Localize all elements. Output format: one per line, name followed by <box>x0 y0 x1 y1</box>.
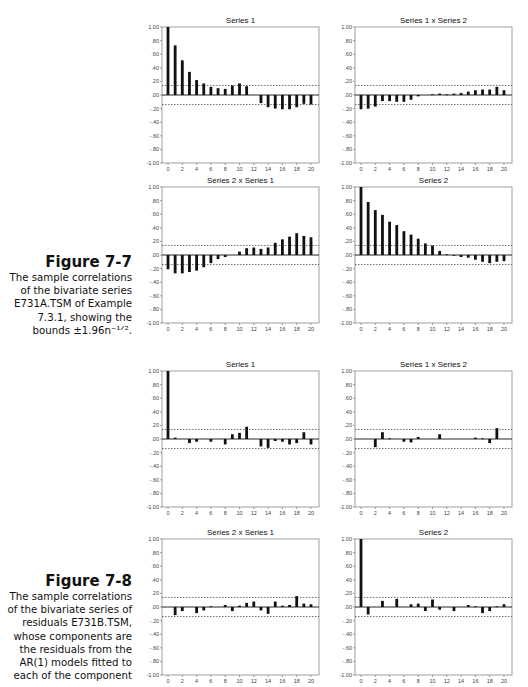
y-tick-label: -1.00 <box>146 504 159 510</box>
chart-fig7-8-series1-x-series2: Series 1 x Series 21.00.80.60.40.20.00-.… <box>323 354 515 519</box>
correlation-bar <box>388 222 391 255</box>
x-tick-label: 6 <box>402 510 405 516</box>
correlation-bar <box>281 606 284 607</box>
y-tick-label: .20 <box>344 78 352 84</box>
correlation-bar <box>410 95 413 100</box>
y-tick-label: -.60 <box>150 477 159 483</box>
correlation-bar <box>302 236 305 255</box>
y-tick-label: .40 <box>344 65 352 71</box>
chart-fig7-8-series2-x-series1: Series 2 x Series 11.00.80.60.40.20.00-.… <box>130 522 322 687</box>
correlation-bar <box>231 434 234 439</box>
y-tick-label: .40 <box>151 409 159 415</box>
correlation-bar <box>224 255 227 257</box>
correlation-bar <box>274 602 277 607</box>
x-tick-label: 16 <box>279 326 285 332</box>
correlation-bar <box>438 607 441 610</box>
x-tick-label: 2 <box>181 510 184 516</box>
chart-title: Series 2 <box>419 528 449 537</box>
y-tick-label: .40 <box>151 577 159 583</box>
caption-line: each of the component <box>0 669 132 682</box>
correlation-bar <box>424 607 427 611</box>
y-tick-label: .00 <box>344 252 352 258</box>
y-tick-label: .80 <box>151 382 159 388</box>
correlation-bar <box>174 607 177 615</box>
correlation-bar <box>181 60 184 95</box>
correlation-bar <box>224 439 227 444</box>
x-tick-label: 6 <box>402 326 405 332</box>
correlation-bar <box>224 605 227 607</box>
correlation-bar <box>202 255 205 267</box>
y-tick-label: -.40 <box>150 119 159 125</box>
correlation-bar <box>217 255 220 259</box>
x-tick-label: 6 <box>209 510 212 516</box>
y-tick-label: .20 <box>344 590 352 596</box>
x-tick-label: 4 <box>195 510 198 516</box>
correlation-bar <box>245 427 248 439</box>
y-tick-label: .80 <box>151 550 159 556</box>
correlation-bar <box>274 439 277 441</box>
caption-line: AR(1) models fitted to <box>0 656 132 669</box>
correlation-bar <box>267 248 270 255</box>
x-tick-label: 16 <box>472 510 478 516</box>
y-tick-label: .00 <box>344 92 352 98</box>
correlation-bar <box>395 225 398 255</box>
correlation-bar <box>181 255 184 273</box>
correlation-bar <box>188 72 191 95</box>
x-tick-label: 4 <box>195 678 198 684</box>
correlation-bar <box>188 255 191 272</box>
x-tick-label: 0 <box>359 678 362 684</box>
correlation-bar <box>374 210 377 255</box>
x-tick-label: 20 <box>501 510 507 516</box>
caption-line: 7.3.1, showing the <box>0 311 132 324</box>
x-tick-label: 20 <box>308 326 314 332</box>
x-tick-label: 20 <box>501 678 507 684</box>
y-tick-label: .40 <box>151 65 159 71</box>
correlation-bar <box>453 607 456 611</box>
correlation-bar <box>238 252 241 255</box>
x-tick-label: 2 <box>181 326 184 332</box>
chart-title: Series 2 x Series 1 <box>207 176 275 185</box>
x-tick-label: 6 <box>209 678 212 684</box>
y-tick-label: .00 <box>151 92 159 98</box>
correlation-bar <box>174 255 177 273</box>
correlation-bar <box>488 90 491 95</box>
correlation-bar <box>488 255 491 263</box>
correlation-bar <box>431 600 434 607</box>
correlation-bar <box>231 607 234 611</box>
correlation-bar <box>460 93 463 95</box>
correlation-bar <box>260 249 263 255</box>
correlation-bar <box>167 371 170 439</box>
y-tick-label: -.20 <box>150 266 159 272</box>
y-tick-label: -1.00 <box>339 320 352 326</box>
y-tick-label: .00 <box>344 436 352 442</box>
chart-title: Series 2 <box>419 176 449 185</box>
y-tick-label: .00 <box>151 436 159 442</box>
correlation-bar <box>310 439 313 444</box>
x-tick-label: 4 <box>388 326 391 332</box>
correlation-bar <box>503 604 506 607</box>
correlation-bar <box>417 437 420 439</box>
x-tick-label: 10 <box>429 326 435 332</box>
chart-fig7-7-series2-x-series1: Series 2 x Series 11.00.80.60.40.20.00-.… <box>130 170 322 335</box>
correlation-bar <box>210 606 213 607</box>
x-tick-label: 4 <box>388 678 391 684</box>
correlation-bar <box>410 439 413 442</box>
correlation-bar <box>495 87 498 95</box>
correlation-bar <box>417 604 420 607</box>
figure-7-7-caption: Figure 7-7 The sample correlations of th… <box>0 254 132 337</box>
x-tick-label: 10 <box>429 510 435 516</box>
x-tick-label: 0 <box>166 510 169 516</box>
y-tick-label: -.20 <box>343 266 352 272</box>
caption-line: The sample correlations <box>0 271 132 284</box>
y-tick-label: .20 <box>151 238 159 244</box>
x-tick-label: 10 <box>236 326 242 332</box>
correlation-bar <box>367 95 370 109</box>
correlation-bar <box>381 432 384 439</box>
y-tick-label: .60 <box>151 395 159 401</box>
y-tick-label: -.60 <box>343 645 352 651</box>
correlation-bar <box>288 439 291 444</box>
correlation-bar <box>267 439 270 448</box>
correlation-bar <box>438 94 441 95</box>
correlation-bar <box>188 439 191 443</box>
correlation-bar <box>245 248 248 255</box>
